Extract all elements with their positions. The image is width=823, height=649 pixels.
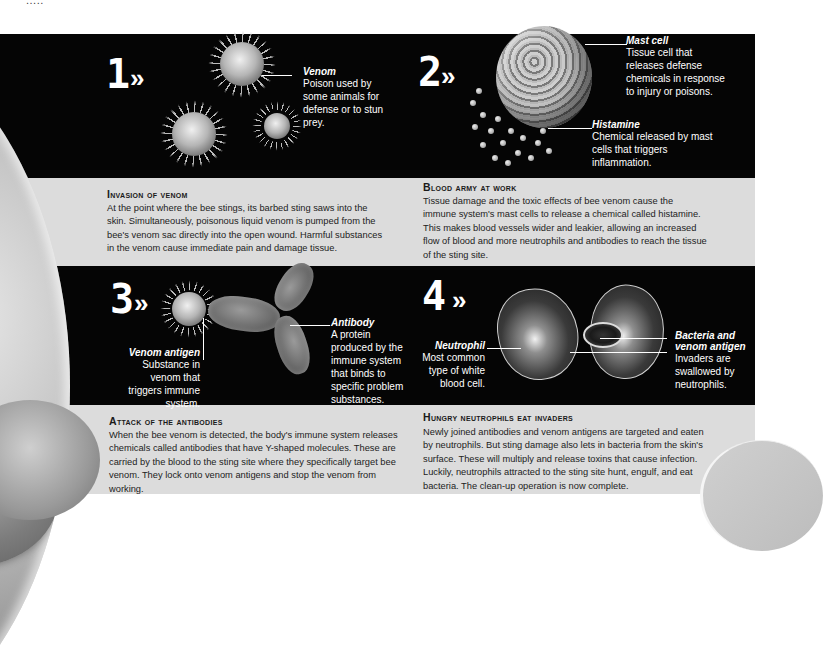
step-number: 3 (110, 279, 134, 319)
leader-line (290, 325, 330, 326)
leader-line (548, 128, 592, 129)
neutrophil-label: Neutrophil Most common type of white blo… (410, 340, 485, 390)
cell-edge-illustration (700, 440, 823, 551)
chevron-right-icon: » (452, 287, 466, 313)
section-title: Invasion of venom (107, 188, 188, 200)
mast-cell-label: Mast cell Tissue cell that releases defe… (626, 35, 726, 98)
section-body: At the point where the bee stings, its b… (107, 202, 387, 256)
antibody-label: Antibody A protein produced by the immun… (331, 317, 411, 406)
step-number: 2 (418, 52, 442, 92)
chevron-right-icon: » (130, 65, 144, 91)
mast-cell-illustration (496, 26, 592, 128)
venom-antigen-illustration (172, 292, 206, 326)
section-body: Tissue damage and the toxic effects of b… (423, 195, 708, 262)
leader-line (600, 338, 667, 339)
venom-particle-illustration (264, 113, 290, 139)
bacteria-label: Bacteria and venom antigen Invaders are … (675, 330, 755, 391)
venom-antigen-label: Venom antigen Substance in venom that tr… (120, 347, 200, 410)
section-title: Hungry neutrophils eat invaders (423, 411, 573, 423)
leader-line (203, 318, 204, 360)
venom-label: Venom Poison used by some animals for de… (303, 66, 393, 129)
header-fragment: ..... (26, 0, 44, 6)
chevron-right-icon: » (441, 63, 455, 89)
step-number: 1 (106, 54, 130, 94)
top-strip: ..... (0, 0, 755, 35)
histamine-label: Histamine Chemical released by mast cell… (592, 119, 722, 169)
section-body: When the bee venom is detected, the body… (109, 429, 399, 496)
leader-line (487, 348, 521, 349)
chevron-right-icon: » (134, 290, 148, 316)
venom-particle-illustration (220, 42, 264, 86)
section-body: Newly joined antibodies and venom antige… (423, 426, 713, 493)
step-number: 4 (422, 276, 446, 316)
bacterium-illustration (583, 322, 623, 348)
leader-line (570, 352, 667, 353)
leader-line (262, 75, 292, 76)
section-title: Attack of the antibodies (109, 415, 223, 427)
venom-particle-illustration (172, 112, 216, 156)
leader-line (585, 44, 627, 45)
section-title: Blood army at work (423, 181, 517, 193)
